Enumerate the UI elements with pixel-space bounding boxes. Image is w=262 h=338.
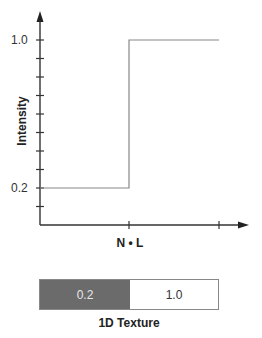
y-axis-arrow-icon [37, 11, 44, 22]
texture-bar: 0.2 1.0 [39, 279, 219, 310]
texture-cell-light: 1.0 [130, 280, 218, 309]
step-function-plot [0, 0, 262, 270]
y-tick-label-bottom: 0.2 [11, 181, 28, 195]
x-axis-arrow-icon [238, 222, 249, 229]
x-axis-label: N • L [100, 236, 160, 250]
y-axis-label: Intensity [15, 91, 29, 151]
texture-cell-dark: 0.2 [40, 280, 130, 309]
intensity-step-line [40, 40, 219, 188]
texture-caption: 1D Texture [39, 316, 219, 330]
y-tick-label-top: 1.0 [11, 33, 28, 47]
